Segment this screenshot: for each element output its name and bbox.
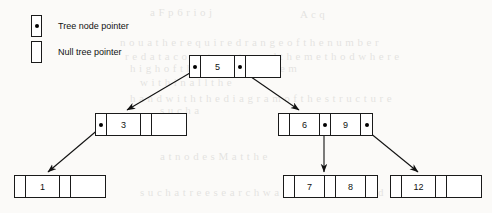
pointer-cell-null (447, 176, 481, 197)
pointer-cell-null (325, 176, 336, 197)
pointer-cell-null (152, 114, 186, 135)
key-cell: 5 (201, 56, 235, 77)
pointer-cell-filled (96, 114, 107, 135)
legend-item-tree-node-pointer: Tree node pointer (31, 15, 129, 37)
key-cell: 12 (402, 176, 436, 197)
pointer-cell-null (391, 176, 402, 197)
edge-root-to-node3 (127, 70, 195, 110)
tree-node-12: 12 (390, 175, 482, 198)
filled-pointer-box-icon (31, 15, 42, 37)
key-cell: 7 (295, 176, 325, 197)
pointer-cell-filled (235, 56, 246, 77)
legend-label-tree-node-pointer: Tree node pointer (58, 21, 129, 31)
pointer-cell-null (15, 176, 26, 197)
legend-item-null-tree-pointer: Null tree pointer (31, 41, 122, 63)
pointer-cell-null (284, 176, 295, 197)
tree-node-1: 1 (14, 175, 106, 198)
pointer-cell-null (246, 56, 280, 77)
key-cell: 3 (107, 114, 141, 135)
pointer-cell-null (60, 176, 71, 197)
key-cell: 8 (336, 176, 366, 197)
tree-node-7-8: 7 8 (283, 175, 378, 198)
pointer-cell-filled (361, 114, 372, 135)
pointer-cell-null (141, 114, 152, 135)
pointer-cell-filled (320, 114, 331, 135)
key-cell: 9 (331, 114, 361, 135)
edge-node3-to-node1 (48, 128, 100, 172)
pointer-cell-null (279, 114, 290, 135)
tree-node-root-5: 5 (189, 55, 281, 78)
key-cell: 6 (290, 114, 320, 135)
tree-node-3: 3 (95, 113, 187, 136)
legend-label-null-tree-pointer: Null tree pointer (58, 47, 122, 57)
btree-diagram-canvas: a F p 6 r i o jA c qn o u a t h e r e q … (0, 0, 492, 213)
tree-node-6-9: 6 9 (278, 113, 373, 136)
key-cell: 1 (26, 176, 60, 197)
empty-pointer-box-icon (31, 41, 42, 63)
pointer-cell-null (436, 176, 447, 197)
pointer-cell-null (71, 176, 105, 197)
pointer-cell-null (366, 176, 377, 197)
pointer-cell-filled (190, 56, 201, 77)
